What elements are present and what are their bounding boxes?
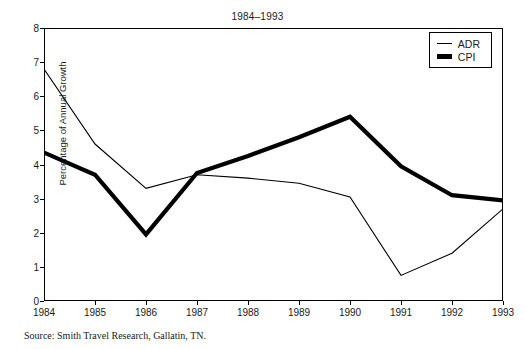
x-tick-mark: [146, 301, 147, 305]
x-tick-label: 1992: [441, 307, 463, 318]
y-tick-mark: [40, 165, 44, 166]
x-tick-label: 1993: [492, 307, 514, 318]
y-tick-mark: [40, 28, 44, 29]
x-tick-mark: [503, 301, 504, 305]
y-tick-label: 3: [33, 193, 39, 204]
x-tick-mark: [452, 301, 453, 305]
y-tick-mark: [40, 199, 44, 200]
y-tick-label: 7: [33, 57, 39, 68]
y-tick-label: 1: [33, 261, 39, 272]
y-tick-mark: [40, 62, 44, 63]
y-tick-label: 6: [33, 91, 39, 102]
x-tick-label: 1984: [33, 307, 55, 318]
x-tick-label: 1986: [135, 307, 157, 318]
y-tick-mark: [40, 301, 44, 302]
plot-area: Percentage of Annual Growth 012345678 19…: [44, 28, 503, 301]
x-tick-mark: [197, 301, 198, 305]
y-tick-label: 8: [33, 23, 39, 34]
legend-item-cpi: CPI: [437, 50, 480, 63]
x-tick-mark: [95, 301, 96, 305]
legend-label: CPI: [458, 51, 476, 63]
y-tick-mark: [40, 267, 44, 268]
x-tick-label: 1990: [339, 307, 361, 318]
y-tick-label: 4: [33, 159, 39, 170]
legend-item-adr: ADR: [437, 37, 480, 50]
x-tick-mark: [350, 301, 351, 305]
plot-frame: [44, 28, 503, 301]
legend-swatch-icon: [437, 43, 452, 45]
chart-title: 1984–1993: [0, 11, 527, 22]
x-tick-label: 1985: [84, 307, 106, 318]
y-tick-label: 2: [33, 227, 39, 238]
x-tick-mark: [248, 301, 249, 305]
x-tick-label: 1991: [390, 307, 412, 318]
top-caption: [24, 0, 324, 6]
x-tick-label: 1988: [237, 307, 259, 318]
chart-legend: ADRCPI: [429, 32, 492, 68]
chart-title-text: 1984–1993: [232, 11, 284, 22]
x-tick-mark: [299, 301, 300, 305]
source-note: Source: Smith Travel Research, Gallatin,…: [24, 330, 206, 341]
x-tick-label: 1987: [186, 307, 208, 318]
legend-label: ADR: [458, 38, 480, 50]
y-tick-label: 5: [33, 125, 39, 136]
x-tick-label: 1989: [288, 307, 310, 318]
y-axis-title: Percentage of Annual Growth: [57, 34, 68, 214]
legend-swatch-icon: [437, 54, 452, 59]
x-tick-mark: [401, 301, 402, 305]
y-tick-mark: [40, 233, 44, 234]
y-tick-mark: [40, 130, 44, 131]
y-tick-label: 0: [33, 296, 39, 307]
y-tick-mark: [40, 96, 44, 97]
